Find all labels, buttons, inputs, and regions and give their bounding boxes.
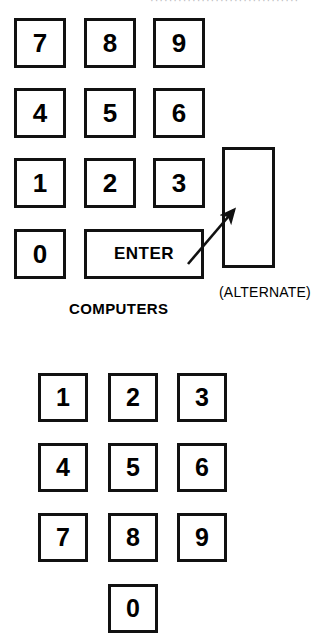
keypad-layout-diagram: ································ 7 8 9 4… (0, 0, 326, 644)
phone-key-0[interactable]: 0 (108, 584, 158, 633)
computer-key-4[interactable]: 4 (14, 88, 66, 138)
computer-key-enter-alternate[interactable] (222, 147, 275, 268)
phone-key-7[interactable]: 7 (38, 513, 88, 562)
phone-key-4[interactable]: 4 (38, 443, 88, 492)
computer-key-9[interactable]: 9 (153, 18, 205, 68)
computer-key-3[interactable]: 3 (153, 158, 205, 208)
computer-key-enter[interactable]: ENTER (84, 229, 204, 279)
phone-key-5[interactable]: 5 (108, 443, 158, 492)
computer-key-1[interactable]: 1 (14, 158, 66, 208)
computers-pad-caption: COMPUTERS (69, 300, 168, 317)
phone-key-2[interactable]: 2 (108, 373, 158, 422)
computer-key-8[interactable]: 8 (84, 18, 136, 68)
computer-key-0[interactable]: 0 (14, 229, 66, 279)
phone-key-1[interactable]: 1 (38, 373, 88, 422)
computer-key-5[interactable]: 5 (84, 88, 136, 138)
phone-key-6[interactable]: 6 (177, 443, 227, 492)
computer-key-2[interactable]: 2 (84, 158, 136, 208)
computer-key-6[interactable]: 6 (153, 88, 205, 138)
cropped-header-text-fragment: ································ (150, 0, 326, 2)
computer-key-7[interactable]: 7 (14, 18, 66, 68)
phone-key-8[interactable]: 8 (108, 513, 158, 562)
phone-key-9[interactable]: 9 (177, 513, 227, 562)
alternate-key-caption: (ALTERNATE) (219, 284, 311, 300)
phone-key-3[interactable]: 3 (177, 373, 227, 422)
